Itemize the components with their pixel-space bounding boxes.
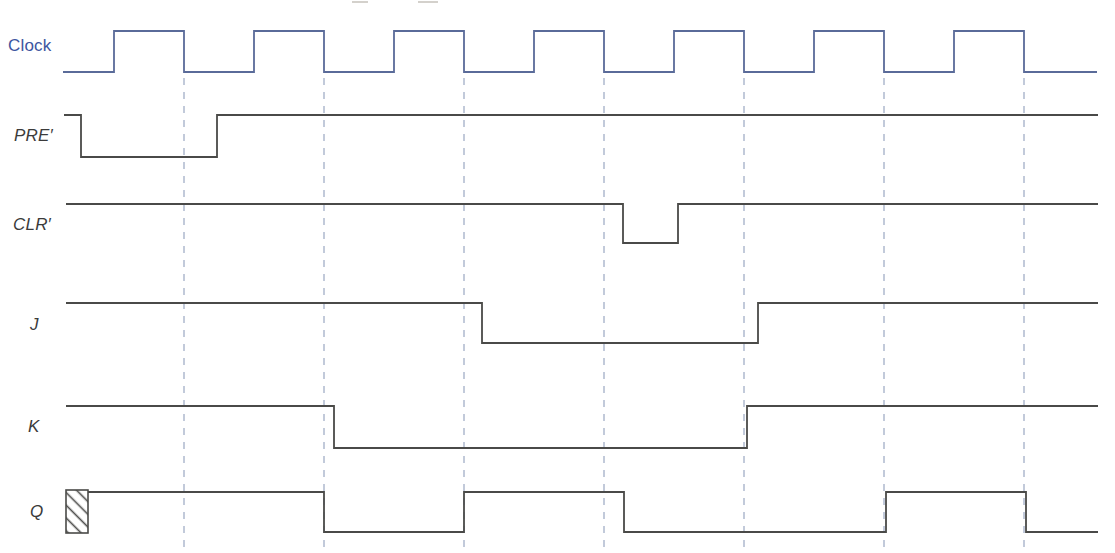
j-waveform <box>66 303 1098 343</box>
clr-waveform <box>66 204 1098 243</box>
k-waveform <box>66 406 1098 448</box>
timing-diagram: Clock PRE′ CLR′ J K Q <box>0 0 1115 553</box>
signal-label-q: Q <box>30 502 43 522</box>
q-waveform <box>88 492 1098 532</box>
cropped-text-artifact <box>352 1 368 3</box>
signal-label-pre: PRE′ <box>14 126 53 146</box>
clock-waveform <box>63 31 1097 72</box>
clock-edge-guides <box>184 78 1024 553</box>
signal-label-clr: CLR′ <box>13 215 51 235</box>
unknown-state-box <box>66 490 88 533</box>
signal-label-j: J <box>30 315 39 335</box>
waveform-canvas <box>0 0 1115 553</box>
pre-waveform <box>64 115 1098 157</box>
unknown-state-layer <box>66 490 88 533</box>
cropped-text-artifact <box>418 1 438 3</box>
signal-waveforms <box>63 31 1098 532</box>
signal-label-k: K <box>28 417 40 437</box>
signal-label-clock: Clock <box>8 36 52 56</box>
